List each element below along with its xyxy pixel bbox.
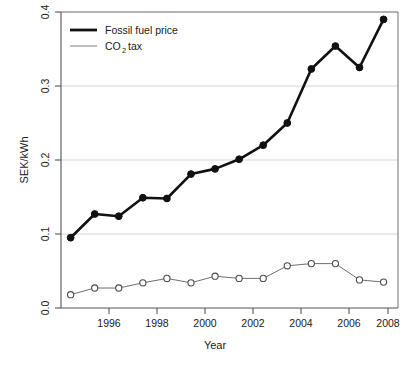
x-tick-label-2002: 2002 bbox=[241, 317, 265, 329]
data-point bbox=[116, 285, 122, 291]
data-point bbox=[91, 211, 98, 218]
legend-label-fossil: Fossil fuel price bbox=[105, 24, 178, 36]
chart-background bbox=[0, 0, 414, 365]
data-point bbox=[188, 280, 194, 286]
x-tick-label-2006: 2006 bbox=[337, 317, 361, 329]
data-point bbox=[356, 64, 363, 71]
y-tick-label-0.4: 0.4 bbox=[39, 5, 51, 20]
y-axis-title: SEK/kWh bbox=[18, 136, 30, 183]
data-point bbox=[68, 292, 74, 298]
y-tick-label-0.3: 0.3 bbox=[39, 79, 51, 94]
legend-label-co2-tax-subscript: 2 bbox=[122, 46, 126, 55]
x-tick-label-2004: 2004 bbox=[289, 317, 313, 329]
data-point bbox=[332, 43, 339, 50]
data-point bbox=[380, 16, 387, 23]
data-point bbox=[115, 213, 122, 220]
data-point bbox=[380, 279, 386, 285]
data-point bbox=[308, 261, 314, 267]
data-point bbox=[212, 165, 219, 172]
data-point bbox=[92, 285, 98, 291]
x-axis-title: Year bbox=[204, 339, 227, 351]
x-tick-label-1998: 1998 bbox=[145, 317, 169, 329]
data-point bbox=[212, 273, 218, 279]
data-point bbox=[236, 156, 243, 163]
data-point bbox=[188, 171, 195, 178]
x-tick-label-1996: 1996 bbox=[97, 317, 121, 329]
data-point bbox=[260, 275, 266, 281]
y-tick-label-0.0: 0.0 bbox=[39, 301, 51, 316]
data-point bbox=[164, 195, 171, 202]
data-point bbox=[139, 194, 146, 201]
data-point bbox=[308, 66, 315, 73]
y-tick-label-0.1: 0.1 bbox=[39, 227, 51, 242]
data-point bbox=[67, 234, 74, 241]
data-point bbox=[164, 275, 170, 281]
x-tick-label-2000: 2000 bbox=[193, 317, 217, 329]
fossil-fuel-price-co2-tax-chart: 0.4 0.3 0.2 0.1 0.0 SEK/kWh 1996 1998 20… bbox=[0, 0, 414, 365]
data-point bbox=[356, 277, 362, 283]
data-point bbox=[140, 280, 146, 286]
data-point bbox=[284, 120, 291, 127]
legend-label-co2-tax-prefix: CO bbox=[105, 40, 121, 52]
legend-label-co2-tax-suffix: tax bbox=[128, 40, 143, 52]
data-point bbox=[236, 275, 242, 281]
data-point bbox=[260, 142, 267, 149]
y-tick-label-0.2: 0.2 bbox=[39, 153, 51, 168]
data-point bbox=[332, 261, 338, 267]
x-tick-label-2008: 2008 bbox=[376, 317, 400, 329]
data-point bbox=[284, 263, 290, 269]
